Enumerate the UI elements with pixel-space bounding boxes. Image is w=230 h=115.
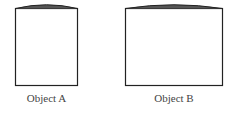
object-b-shape — [126, 5, 223, 86]
object-a-shape — [16, 5, 78, 86]
object-b-label: Object B — [125, 92, 223, 104]
object-a-label: Object A — [15, 92, 78, 104]
